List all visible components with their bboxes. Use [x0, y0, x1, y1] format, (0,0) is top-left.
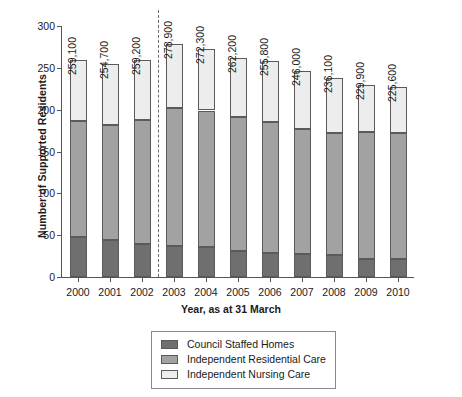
bar-2008[interactable]: 236,100: [326, 26, 343, 277]
x-tick-label-2009: 2009: [354, 286, 377, 298]
y-tick-label: 300: [37, 20, 55, 32]
bar-value-label: 259,200: [130, 37, 142, 75]
bar-segment[interactable]: [230, 251, 247, 277]
bar-segment[interactable]: [198, 111, 215, 247]
bar-2005[interactable]: 262,200: [230, 26, 247, 277]
x-tick-mark: [174, 277, 175, 282]
x-tick-mark: [366, 277, 367, 282]
legend-label-independent-nursing-care: Independent Nursing Care: [187, 367, 310, 382]
bar-2002[interactable]: 259,200: [134, 26, 151, 277]
legend-label-council-staffed-homes: Council Staffed Homes: [187, 337, 294, 352]
legend-swatch-independent-nursing-care: [161, 370, 178, 379]
bar-segment[interactable]: [166, 108, 183, 246]
bar-2003[interactable]: 278,900: [166, 26, 183, 277]
plot-area: 050100150200250300 200020012002200320042…: [62, 26, 414, 277]
bar-2004[interactable]: 272,300: [198, 26, 215, 277]
bar-segment[interactable]: [358, 132, 375, 258]
x-axis-title: Year, as at 31 March: [0, 303, 462, 315]
bar-2000[interactable]: 259,100: [70, 26, 87, 277]
y-tick-label: 250: [37, 62, 55, 74]
x-tick-mark: [238, 277, 239, 282]
x-tick-label-2010: 2010: [386, 286, 409, 298]
bar-segment[interactable]: [326, 133, 343, 255]
x-tick-mark: [334, 277, 335, 282]
x-tick-mark: [302, 277, 303, 282]
y-tick-label: 200: [37, 104, 55, 116]
bar-value-label: 246,000: [290, 48, 302, 86]
bar-value-label: 262,200: [226, 35, 238, 73]
x-tick-mark: [78, 277, 79, 282]
bar-value-label: 272,300: [194, 26, 206, 64]
bar-value-label: 254,700: [98, 41, 110, 79]
y-tick-mark: [57, 68, 62, 69]
period-divider-line: [158, 10, 159, 277]
y-tick-label: 0: [49, 271, 55, 283]
y-tick-mark: [57, 193, 62, 194]
bar-2009[interactable]: 229,900: [358, 26, 375, 277]
y-tick-mark: [57, 26, 62, 27]
bar-segment[interactable]: [358, 259, 375, 277]
bar-segment[interactable]: [390, 133, 407, 259]
x-tick-label-2002: 2002: [130, 286, 153, 298]
bar-value-label: 229,900: [354, 62, 366, 100]
bar-value-label: 278,900: [162, 21, 174, 59]
legend-label-independent-residential-care: Independent Residential Care: [187, 352, 326, 367]
y-tick-label: 150: [37, 146, 55, 158]
bar-value-label: 259,100: [66, 37, 78, 75]
bar-segment[interactable]: [134, 244, 151, 277]
bar-segment[interactable]: [198, 247, 215, 277]
y-tick-mark: [57, 152, 62, 153]
legend-swatch-council-staffed-homes: [161, 340, 178, 349]
bar-segment[interactable]: [102, 240, 119, 277]
x-tick-mark: [110, 277, 111, 282]
y-tick-label: 100: [37, 187, 55, 199]
bar-value-label: 255,800: [258, 38, 270, 76]
bar-segment[interactable]: [102, 125, 119, 240]
bar-segment[interactable]: [326, 255, 343, 277]
stacked-bar-chart: Number of Supported Residents 0501001502…: [0, 0, 462, 397]
x-tick-mark: [270, 277, 271, 282]
y-tick-mark: [57, 277, 62, 278]
legend-item-independent-nursing-care: Independent Nursing Care: [161, 367, 326, 382]
x-tick-label-2006: 2006: [258, 286, 281, 298]
bar-segment[interactable]: [230, 117, 247, 251]
bar-segment[interactable]: [134, 120, 151, 244]
legend-item-council-staffed-homes: Council Staffed Homes: [161, 337, 326, 352]
bar-segment[interactable]: [70, 121, 87, 236]
bar-segment[interactable]: [390, 259, 407, 277]
x-tick-label-2005: 2005: [226, 286, 249, 298]
bar-segment[interactable]: [70, 237, 87, 277]
bar-segment[interactable]: [166, 246, 183, 277]
bar-segment[interactable]: [294, 254, 311, 277]
x-tick-label-2001: 2001: [98, 286, 121, 298]
bar-segment[interactable]: [262, 122, 279, 253]
bar-value-label: 225,600: [386, 64, 398, 102]
legend-swatch-independent-residential-care: [161, 355, 178, 364]
bar-segment[interactable]: [262, 253, 279, 277]
x-tick-mark: [398, 277, 399, 282]
legend-item-independent-residential-care: Independent Residential Care: [161, 352, 326, 367]
bar-2001[interactable]: 254,700: [102, 26, 119, 277]
x-tick-mark: [142, 277, 143, 282]
x-tick-mark: [206, 277, 207, 282]
y-tick-mark: [57, 110, 62, 111]
bar-segment[interactable]: [294, 129, 311, 254]
y-tick-mark: [57, 235, 62, 236]
x-tick-label-2003: 2003: [162, 286, 185, 298]
bar-2006[interactable]: 255,800: [262, 26, 279, 277]
y-tick-label: 50: [43, 229, 55, 241]
bar-2007[interactable]: 246,000: [294, 26, 311, 277]
bar-value-label: 236,100: [322, 55, 334, 93]
chart-legend: Council Staffed Homes Independent Reside…: [151, 331, 336, 389]
x-tick-label-2008: 2008: [322, 286, 345, 298]
x-tick-label-2004: 2004: [194, 286, 217, 298]
x-tick-label-2000: 2000: [66, 286, 89, 298]
x-tick-label-2007: 2007: [290, 286, 313, 298]
bar-2010[interactable]: 225,600: [390, 26, 407, 277]
